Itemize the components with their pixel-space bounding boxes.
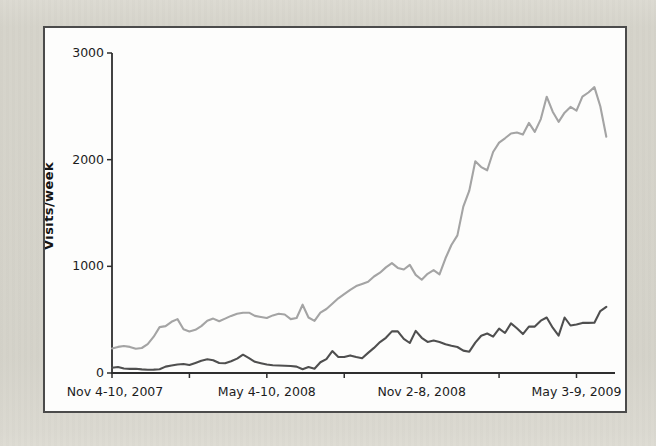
x-tick-label: May 3-9, 2009 xyxy=(531,384,621,399)
light-gray-series-line xyxy=(112,87,606,349)
y-tick-label: 2000 xyxy=(72,152,104,167)
x-tick-label: Nov 2-8, 2008 xyxy=(377,384,466,399)
y-tick-label: 0 xyxy=(96,365,104,380)
y-axis-title: Visits/week xyxy=(45,162,56,250)
dark-gray-series-line xyxy=(112,307,606,370)
x-tick-label: May 4-10, 2008 xyxy=(218,384,316,399)
x-tick-label: Nov 4-10, 2007 xyxy=(67,384,164,399)
line-chart: 0100020003000Nov 4-10, 2007May 4-10, 200… xyxy=(45,28,625,411)
page-background: { "figure": { "background_color": "#eae9… xyxy=(0,0,656,446)
y-tick-label: 3000 xyxy=(72,45,104,60)
chart-panel: 0100020003000Nov 4-10, 2007May 4-10, 200… xyxy=(43,26,627,413)
y-tick-label: 1000 xyxy=(72,258,104,273)
